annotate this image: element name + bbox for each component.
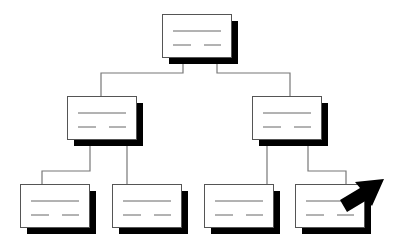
box-frame	[113, 185, 182, 228]
node-box-leaf-1[interactable]	[21, 185, 97, 235]
box-frame	[68, 97, 137, 140]
box-frame	[253, 97, 322, 140]
box-frame	[21, 185, 90, 228]
node-box-root[interactable]	[163, 15, 239, 65]
node-box-mid-right[interactable]	[253, 97, 329, 147]
node-box-mid-left[interactable]	[68, 97, 144, 147]
hierarchy-diagram	[0, 0, 401, 247]
node-box-leaf-3[interactable]	[205, 185, 281, 235]
box-frame	[205, 185, 274, 228]
node-box-leaf-2[interactable]	[113, 185, 189, 235]
box-frame	[163, 15, 232, 58]
